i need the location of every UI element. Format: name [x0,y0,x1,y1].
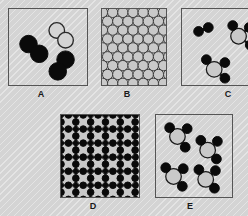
ion-small-dark [95,182,102,189]
ion-small-dark [124,140,131,147]
particle-diagram-figure: ABCDE [0,0,248,216]
ion-small-dark [61,147,64,154]
panel-c[interactable] [181,8,248,86]
ion-small-dark [117,133,124,140]
atom-dark [180,142,190,152]
ion-small-dark [117,161,124,168]
ion-small-dark [95,140,102,147]
ion-small-dark [80,140,87,147]
atom-lattice [148,78,158,85]
ion-small-dark [117,175,124,182]
ion-small-dark [95,154,102,161]
ion-small-dark [73,175,80,182]
ion-small-dark [124,126,131,133]
ion-small-dark [73,119,80,126]
atom-lattice [108,78,118,85]
ion-small-dark [87,147,94,154]
ion-small-dark [80,182,87,189]
panel-b[interactable] [101,8,167,86]
panel-b-canvas [102,9,166,85]
ion-small-dark [110,126,117,133]
panel-label-a: A [34,89,48,99]
atom-lattice [118,78,128,85]
atom-dark [161,163,171,173]
molecule [194,23,214,37]
ion-small-dark [117,189,124,196]
panel-label-d: D [86,201,100,211]
panel-a-canvas [9,9,87,85]
atom-dark [211,166,221,176]
ion-small-dark [110,140,117,147]
ion-small-dark [80,126,87,133]
panel-label-b: B [120,89,134,99]
ion-small-dark [73,147,80,154]
ion-small-dark [65,154,72,161]
atom-dark [30,45,48,63]
ion-small-dark [73,133,80,140]
panel-label-e: E [183,201,197,211]
atom-dark [165,123,175,133]
atom-dark [196,136,206,146]
ion-small-dark [80,115,87,118]
ion-small-dark [117,119,124,126]
ion-small-dark [132,133,139,140]
atom-lattice [128,78,138,85]
ion-small-dark [87,119,94,126]
ion-small-dark [61,119,64,126]
panel-e-canvas [156,115,232,197]
ion-small-dark [110,115,117,118]
ion-small-dark [87,133,94,140]
ion-small-dark [102,133,109,140]
ion-small-dark [61,161,64,168]
atom-dark [194,165,204,175]
panel-d-canvas [61,115,139,197]
ion-small-dark [110,182,117,189]
ion-small-dark [87,189,94,196]
panel-c-canvas [182,9,248,85]
molecule [165,123,192,152]
atom-dark [177,181,187,191]
ion-small-dark [65,126,72,133]
molecule [228,21,248,50]
molecule [196,136,222,164]
ion-small-dark [65,115,72,118]
atom-dark [213,136,223,146]
ion-small-dark [124,168,131,175]
ion-small-dark [117,147,124,154]
panel-a[interactable] [8,8,88,86]
ion-small-dark [95,115,102,118]
atom-dark [220,73,230,83]
ion-small-dark [132,119,139,126]
ion-small-dark [65,140,72,147]
molecule [161,163,188,191]
ion-small-dark [110,168,117,175]
atom-dark [203,23,213,33]
ion-small-dark [87,161,94,168]
ion-small-dark [95,168,102,175]
ion-small-dark [87,175,94,182]
ion-small-dark [73,189,80,196]
panel-e[interactable] [155,114,233,198]
atom-dark [212,154,222,164]
ion-small-dark [73,161,80,168]
ion-small-dark [102,189,109,196]
atom-dark [194,27,204,37]
ion-small-dark [80,154,87,161]
molecule [202,55,230,83]
ion-small-dark [65,182,72,189]
ion-small-dark [102,161,109,168]
ion-small-dark [132,175,139,182]
molecule [194,165,220,193]
ion-small-dark [110,154,117,161]
ion-small-dark [61,175,64,182]
ion-small-dark [132,161,139,168]
panel-d[interactable] [60,114,140,198]
ion-small-dark [65,168,72,175]
ion-small-dark [95,126,102,133]
ion-small-dark [61,133,64,140]
ion-small-dark [124,182,131,189]
atom-dark [228,21,238,31]
molecule [49,51,74,80]
atom-dark [178,164,188,174]
ion-small-dark [132,189,139,196]
